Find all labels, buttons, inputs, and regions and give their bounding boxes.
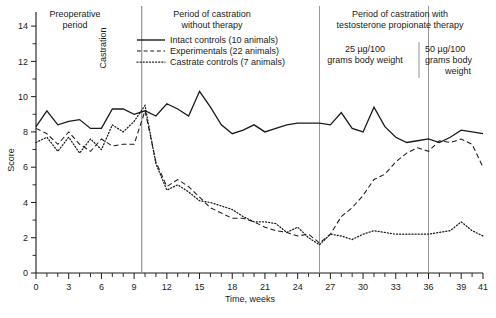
x-tick-label: 21 [260,282,270,292]
annotation-preoperative-line1: Preoperative [49,9,100,19]
x-axis-ticks [36,273,483,279]
annotation-dose-50-line3: weight [444,66,472,76]
x-tick-label: 9 [132,282,137,292]
x-tick-label: 30 [358,282,368,292]
chart-legend: Intact controls (10 animals) Experimenta… [137,35,285,67]
y-axis-title: Score [6,148,16,172]
chart-svg: 02468101214 03691215182124273033363941 S… [0,0,496,318]
y-axis-ticks [31,26,36,273]
x-tick-label: 15 [195,282,205,292]
annotation-no-therapy-line2: without therapy [180,20,243,30]
x-tick-label: 0 [33,282,38,292]
annotation-dose-50-line2: grams body [425,55,473,65]
annotation-no-therapy-line1: Period of castration [173,9,251,19]
legend-label-experimentals: Experimentals (22 animals) [170,46,279,56]
annotation-castration: Castration [98,27,108,68]
annotation-dose-25-line1: 25 µg/100 [345,44,385,54]
x-tick-label: 36 [423,282,433,292]
series-line [36,111,483,243]
x-tick-label: 18 [227,282,237,292]
x-tick-label: 24 [293,282,303,292]
x-tick-label: 33 [391,282,401,292]
annotation-dose-25-line2: grams body weight [327,55,403,65]
legend-label-intact-controls: Intact controls (10 animals) [170,35,278,45]
y-tick-label: 8 [23,127,28,137]
chart-figure: 02468101214 03691215182124273033363941 S… [0,0,496,318]
x-axis-title: Time, weeks [225,294,276,304]
x-tick-label: 12 [162,282,172,292]
y-tick-label: 12 [18,57,28,67]
x-tick-label: 39 [456,282,466,292]
x-tick-label: 27 [325,282,335,292]
y-tick-label: 4 [23,198,28,208]
annotation-therapy-line2: testosterone propionate therapy [336,20,464,30]
x-tick-label: 3 [66,282,71,292]
x-axis-tick-labels: 03691215182124273033363941 [33,282,488,292]
y-axis-tick-labels: 02468101214 [18,21,28,278]
annotation-preoperative-line2: period [62,20,87,30]
legend-label-castrate-controls: Castrate controls (7 animals) [170,57,285,67]
y-tick-label: 6 [23,162,28,172]
x-tick-label: 6 [99,282,104,292]
data-series-group [36,91,483,244]
annotation-dose-50-line1: 50 µg/100 [425,44,465,54]
y-tick-label: 2 [23,233,28,243]
annotation-therapy-line1: Period of castration with [352,9,448,19]
y-tick-label: 14 [18,21,28,31]
y-tick-label: 0 [23,268,28,278]
y-tick-label: 10 [18,92,28,102]
x-tick-label: 41 [478,282,488,292]
series-line [36,91,483,142]
